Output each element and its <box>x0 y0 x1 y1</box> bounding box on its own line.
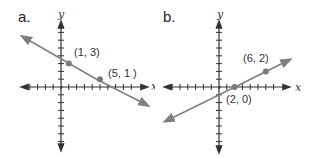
y-axis-label: y <box>216 8 224 21</box>
line-b <box>168 87 235 120</box>
graph-a-plot: x y (1, 3) (5, 1 ) <box>0 0 155 159</box>
graph-a: a. <box>0 0 155 159</box>
graph-b-plot: x y (2, 0) (6, 2) <box>155 0 309 159</box>
point-1-3 <box>66 61 72 67</box>
graph-b: b. <box>155 0 309 159</box>
x-axis-label: x <box>295 81 302 94</box>
point-6-2 <box>263 68 269 74</box>
point-5-1 <box>97 76 103 82</box>
point-label-2-0: (2, 0) <box>226 93 252 105</box>
y-axis-label: y <box>57 8 65 21</box>
point-label-5-1: (5, 1 ) <box>108 67 137 79</box>
point-label-1-3: (1, 3) <box>74 46 100 58</box>
point-2-0 <box>232 84 238 90</box>
point-label-6-2: (6, 2) <box>243 52 269 64</box>
